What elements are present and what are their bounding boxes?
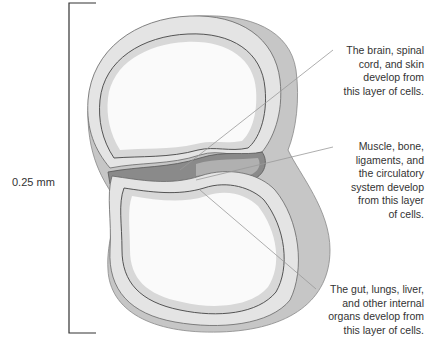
label-line: this layer of cells. [328,324,424,338]
label-line: and other internal [328,297,424,311]
label-ectoderm: The brain, spinal cord, and skin develop… [343,44,424,98]
lower-cavity [129,193,276,306]
scale-label: 0.25 mm [12,176,55,188]
label-line: cord, and skin [343,58,424,72]
label-line: organs develop from [328,310,424,324]
label-line: of cells. [351,208,424,222]
label-line: ligaments, and [351,154,424,168]
label-endoderm: The gut, lungs, liver, and other interna… [328,283,424,337]
label-line: The brain, spinal [343,44,424,58]
label-line: develop from [343,71,424,85]
label-line: from this layer [351,194,424,208]
label-line: system develop [351,181,424,195]
label-line: the circulatory [351,167,424,181]
scale-bracket [69,3,96,333]
label-line: The gut, lungs, liver, [328,283,424,297]
label-mesoderm: Muscle, bone, ligaments, and the circula… [351,140,424,221]
label-line: this layer of cells. [343,85,424,99]
label-line: Muscle, bone, [351,140,424,154]
